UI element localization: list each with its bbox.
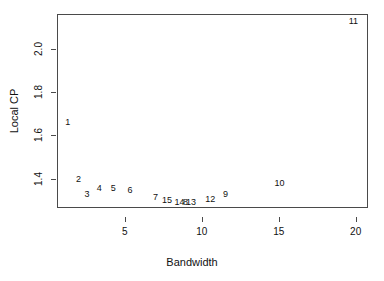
y-axis-tick-label: 2.0	[33, 42, 44, 56]
y-axis-tick-label: 1.8	[33, 85, 44, 99]
data-point-label: 6	[128, 186, 133, 195]
data-point-label: 10	[274, 178, 284, 187]
data-point-label: 13	[186, 197, 196, 206]
y-axis-tick-label: 1.4	[33, 172, 44, 186]
y-axis-tick	[51, 135, 56, 136]
x-axis-tick-label: 20	[350, 226, 361, 237]
x-axis-tick-label: 5	[122, 226, 128, 237]
data-point-label: 3	[85, 189, 90, 198]
data-point-label: 9	[223, 189, 228, 198]
data-point-label: 7	[153, 192, 158, 201]
y-axis-tick	[51, 179, 56, 180]
x-axis-tick	[356, 217, 357, 222]
x-axis-tick-label: 10	[196, 226, 207, 237]
chart-figure: 123456715148131291011 5101520 1.41.61.82…	[0, 0, 384, 281]
data-point-label: 4	[97, 183, 102, 192]
data-point-label: 2	[76, 175, 81, 184]
data-point-label: 11	[349, 16, 358, 25]
x-axis-tick	[125, 217, 126, 222]
y-axis-tick	[51, 49, 56, 50]
y-axis-tick-label: 1.6	[33, 128, 44, 142]
y-axis-title: Local CP	[8, 89, 20, 134]
x-axis-tick	[202, 217, 203, 222]
data-point-label: 15	[162, 196, 172, 205]
x-axis-tick	[279, 217, 280, 222]
data-point-label: 5	[111, 183, 116, 192]
x-axis-tick-label: 15	[273, 226, 284, 237]
y-axis-tick	[51, 92, 56, 93]
data-point-label: 12	[205, 194, 215, 203]
x-axis-title: Bandwidth	[0, 256, 384, 268]
plot-area	[57, 14, 368, 208]
data-point-label: 1	[65, 117, 70, 126]
